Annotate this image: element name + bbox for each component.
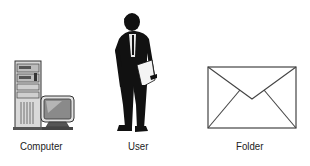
user-label: User xyxy=(128,140,148,152)
computer-icon xyxy=(12,58,92,138)
user-icon xyxy=(105,5,165,135)
computer-label: Computer xyxy=(20,140,63,152)
envelope-icon xyxy=(207,66,299,132)
folder-label: Folder xyxy=(236,140,263,152)
